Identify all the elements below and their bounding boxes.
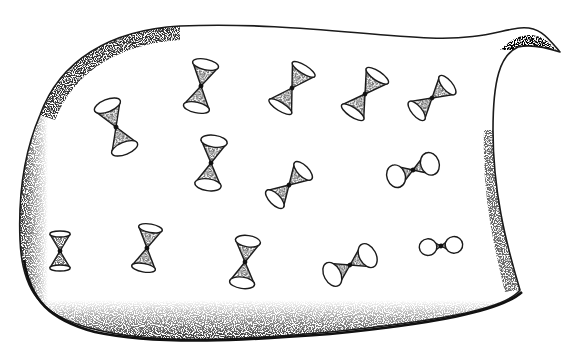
cone-rim <box>50 231 70 237</box>
light-cone-illustration <box>0 0 575 364</box>
manifold-drawing <box>0 0 575 364</box>
event-point <box>58 249 63 254</box>
cone-rim <box>419 238 438 256</box>
cone-rim <box>50 265 70 271</box>
cone-rim <box>445 236 464 254</box>
